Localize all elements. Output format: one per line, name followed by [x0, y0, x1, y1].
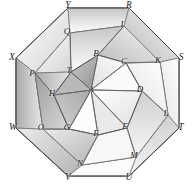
geometric-figure-panel: Y R S T U V W X I K L M N O P Q B C D E …	[0, 0, 194, 185]
octagon-pinwheel-svg	[0, 0, 194, 185]
